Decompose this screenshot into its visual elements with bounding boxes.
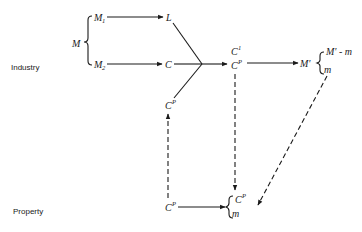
node-C: C <box>165 59 172 70</box>
node-C1: C 1 <box>231 44 241 57</box>
node-M-prime-minus-m: M' - m <box>325 46 352 57</box>
mprime-brace <box>317 52 324 74</box>
node-L: L <box>165 12 172 23</box>
svg-text:C: C <box>165 100 172 111</box>
diagram-canvas: Industry Property M M 1 L M 2 C C P C 1 … <box>0 0 362 232</box>
node-CP-industry-right: C P <box>231 58 242 71</box>
node-M2: M 2 <box>93 59 106 71</box>
node-m-property: m <box>232 208 239 219</box>
node-m-industry: m <box>324 64 331 75</box>
node-CP-property-right: C P <box>235 192 246 205</box>
node-CP-industry-left: C P <box>165 98 176 111</box>
edge-dashed-m-diagonal <box>258 76 327 205</box>
node-M: M <box>71 38 81 49</box>
node-M1: M 1 <box>93 12 105 24</box>
edge-CP-junction <box>174 64 202 98</box>
svg-text:2: 2 <box>102 64 106 71</box>
node-CP-property-left: C P <box>165 200 176 213</box>
svg-text:1: 1 <box>102 17 105 24</box>
edge-L-junction <box>173 23 202 64</box>
svg-text:C: C <box>231 60 238 71</box>
industry-label: Industry <box>11 63 39 72</box>
m-brace <box>84 16 92 65</box>
svg-text:1: 1 <box>238 44 241 51</box>
svg-text:C: C <box>231 46 238 57</box>
svg-text:P: P <box>171 200 176 207</box>
svg-text:P: P <box>241 192 246 199</box>
svg-text:P: P <box>171 98 176 105</box>
svg-text:C: C <box>165 202 172 213</box>
svg-text:P: P <box>237 58 242 65</box>
property-label: Property <box>13 207 43 216</box>
node-M-prime: M' <box>299 58 311 69</box>
svg-text:C: C <box>235 194 242 205</box>
